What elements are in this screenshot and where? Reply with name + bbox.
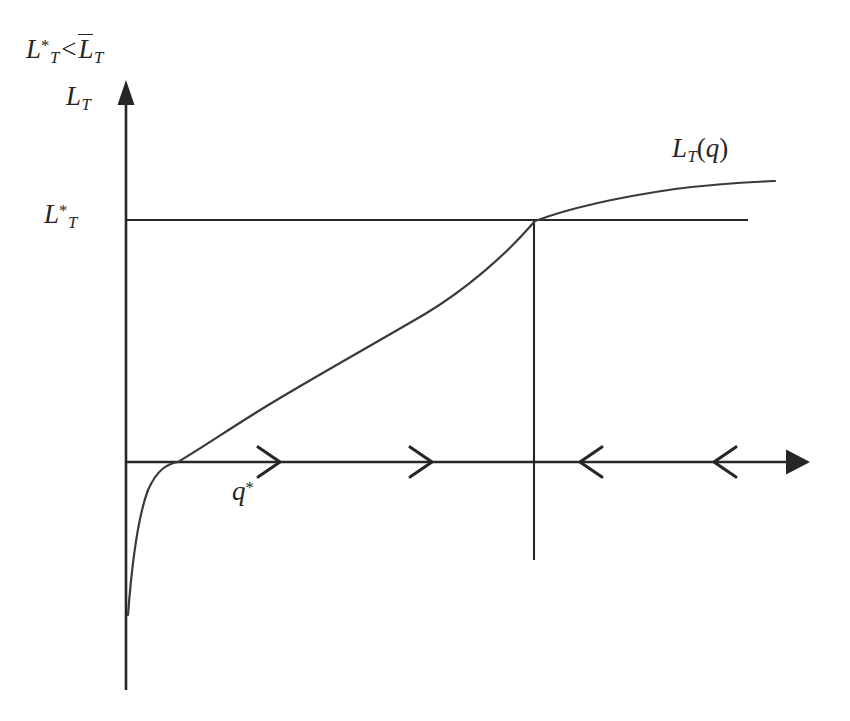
q-star-label: q* [232, 478, 254, 505]
inequality-lhs-symbol: L [26, 34, 41, 64]
curve-label-subscript: T [688, 147, 697, 166]
y-axis-label-subscript: T [82, 95, 91, 114]
x-axis-group [126, 450, 810, 475]
equilibrium-level-label: L*T [44, 201, 77, 231]
inequality-rhs-symbol: L [78, 34, 93, 64]
curve-label: LT(q) [672, 135, 728, 165]
figure-root: L*T<LT LT L*T LT(q) q* [0, 0, 850, 721]
y-axis-group [118, 80, 135, 690]
curve-label-symbol: L [672, 133, 687, 163]
equilibrium-level-subscript: T [68, 213, 77, 232]
lt-of-q-curve [128, 181, 775, 615]
curve-label-argument: q [706, 133, 720, 163]
q-star-superscript: * [246, 478, 254, 497]
curve-label-close-paren: ) [719, 133, 728, 163]
y-axis-label-symbol: L [66, 81, 81, 111]
inequality-rhs-subscript: T [94, 48, 103, 67]
diagram-canvas [0, 0, 850, 721]
y-axis-arrowhead-icon [118, 80, 135, 105]
y-axis-label: LT [66, 83, 91, 113]
curve-label-open-paren: ( [697, 133, 706, 163]
inequality-lhs-subscript: T [50, 48, 59, 67]
inequality-rhs-overbar: L [78, 34, 93, 63]
q-star-symbol: q [232, 476, 246, 506]
x-axis-arrowhead-icon [786, 450, 810, 475]
inequality-relation-operator: < [59, 34, 78, 64]
equilibrium-level-superscript: * [59, 201, 67, 220]
inequality-lhs-superscript: * [41, 36, 49, 55]
inequality-label: L*T<LT [26, 34, 103, 66]
equilibrium-level-symbol: L [44, 199, 59, 229]
